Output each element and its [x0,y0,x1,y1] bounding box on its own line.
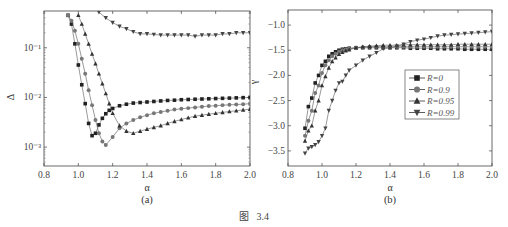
data-point [76,42,80,46]
data-point [248,96,252,100]
data-point [97,10,101,14]
y-axis-label-b: γ [248,79,259,85]
data-point [100,81,104,85]
x-tick-label: 0.8 [282,170,294,180]
data-point [86,41,90,45]
data-point [228,96,232,100]
data-point [125,102,129,106]
data-point [166,99,170,103]
data-point [340,80,344,84]
data-point [248,102,252,106]
series-group-a [66,10,252,147]
data-point [221,103,225,107]
panel-label-b: (b) [384,194,397,206]
data-point [179,107,183,111]
data-point [361,59,365,63]
data-point [107,109,111,113]
data-point [193,97,197,101]
data-point [333,89,337,93]
x-tick-label: 1.4 [141,170,153,180]
legend-label: R=0.9 [426,85,450,95]
x-axis-label-b: α [387,182,393,193]
data-point [317,74,321,78]
data-point [310,123,314,127]
data-point [227,103,231,107]
x-tick-label: 1.2 [107,170,119,180]
data-point [200,105,204,109]
data-point [107,101,111,105]
data-point [327,58,331,62]
y-tick-label: 10⁻² [24,92,42,102]
data-point [172,108,176,112]
data-point [80,83,84,87]
data-point [180,98,184,102]
data-point [344,74,348,78]
data-point [323,74,327,78]
y-tick-label: −1.5 [268,45,285,55]
data-point [94,118,98,122]
data-point [327,54,331,58]
y-tick-label: 10⁻³ [24,142,42,152]
data-point [73,29,77,33]
data-point [324,60,328,64]
data-point [354,64,358,68]
data-point [307,105,311,109]
y-axis-label-a: Δ [5,93,16,100]
data-point [186,98,190,102]
data-point [234,103,238,107]
x-tick-label: 1.8 [452,170,464,180]
data-point [104,91,108,95]
x-tick-label: 1.8 [210,170,222,180]
series-group-b [303,30,494,156]
x-tick-label: 1.6 [175,170,187,180]
data-point [73,42,77,46]
y-tick-label: −3.5 [268,146,285,156]
data-point [111,21,115,25]
data-point [104,112,108,116]
x-tick-label: 2.0 [486,170,498,180]
x-tick-label: 1.0 [72,170,84,180]
data-point [76,13,80,17]
data-point [330,99,334,103]
y-tick-label: −1.0 [268,20,285,30]
data-point [118,104,122,108]
data-point [200,97,204,101]
data-point [124,121,128,125]
x-tick-label: 1.4 [384,170,396,180]
data-point [145,113,149,117]
data-point [87,122,91,126]
y-tick-label: −2.0 [268,70,285,80]
legend-marker-icon [414,86,420,92]
data-point [334,52,338,56]
x-axis-label-a: α [144,182,150,193]
data-point [303,138,307,142]
data-point [124,129,128,133]
data-point [66,13,70,17]
data-point [104,16,108,20]
data-point [207,104,211,108]
x-tick-label: 2.0 [244,170,256,180]
data-point [83,102,87,106]
data-point [90,103,94,107]
data-point [111,135,115,139]
data-point [323,126,327,130]
data-point [90,134,94,138]
data-point [152,100,156,104]
data-point [77,63,81,67]
legend-label: R=0.99 [426,108,455,118]
x-tick-label: 1.6 [418,170,430,180]
data-point [80,22,84,26]
data-point [327,66,331,70]
panel-b: 0.81.01.21.41.61.82.0 −1.0−1.5−2.0−2.5−3… [248,10,498,206]
data-point [173,98,177,102]
data-point [83,32,87,36]
series-r-0-99 [97,10,252,38]
data-point [90,52,94,56]
data-point [241,96,245,100]
data-point [221,97,225,101]
data-point [124,27,128,31]
data-point [214,97,218,101]
figure: 0.81.01.21.41.61.82.0 10⁻¹10⁻²10⁻³ α Δ (… [0,0,508,227]
data-point [94,131,98,135]
x-axis-ticks-b: 0.81.01.21.41.61.82.0 [282,10,498,180]
